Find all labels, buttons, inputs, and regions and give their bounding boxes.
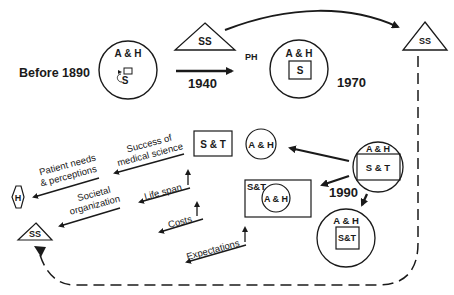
ss-left-label: SS	[29, 229, 41, 239]
ss-triangle-top-right: SS	[403, 22, 447, 50]
circle4-st-label: S&T	[338, 233, 357, 243]
ss-top-left-label: SS	[198, 36, 212, 47]
ah-circle-small: A & H	[246, 129, 276, 159]
ss-top-right-label: SS	[419, 36, 431, 46]
circle-before-1890: A & H S	[99, 41, 157, 99]
rect-ah-label: A & H	[264, 194, 288, 204]
rect-corner-st-label: S&T	[247, 181, 266, 192]
arrow-to-rect-box	[322, 176, 349, 185]
h-label: H	[15, 193, 22, 203]
st-box-label: S & T	[200, 139, 226, 150]
circle2-s-label: S	[297, 65, 304, 76]
rect-st-ah: S&T A & H	[245, 180, 311, 217]
circle3-ah-label: A & H	[366, 144, 390, 154]
arrow-to-ah-circle	[290, 148, 349, 161]
circle-st-right: A & H S & T	[353, 142, 403, 192]
evolution-diagram: Before 1890 A & H S SS 1940 PH A & H S 1…	[0, 0, 454, 295]
year-1970-label: 1970	[337, 75, 366, 90]
ss-triangle-top-left: SS	[175, 23, 235, 50]
year-1990-label: 1990	[329, 185, 358, 200]
circle1-s-label: S	[122, 75, 129, 86]
circle-st-bottom: A & H S&T	[317, 209, 375, 267]
circle1-ah-label: A & H	[115, 48, 142, 59]
ah-small-label: A & H	[248, 139, 274, 150]
circle-1970: A & H S	[270, 40, 328, 98]
before-1890-label: Before 1890	[19, 66, 90, 80]
year-1940-label: 1940	[188, 76, 217, 91]
st-box: S & T	[194, 131, 232, 156]
curved-arrow-ss	[225, 11, 398, 30]
circle4-ah-label: A & H	[333, 215, 359, 226]
h-hexagon: H	[12, 186, 24, 208]
costs-label: Costs	[167, 213, 194, 230]
arrowhead-icon	[118, 70, 122, 74]
circle3-st-label: S & T	[366, 162, 390, 173]
circle2-ah-label: A & H	[286, 48, 313, 59]
ss-triangle-left: SS	[18, 223, 52, 240]
arrow-down-1990	[362, 194, 367, 205]
dashed-arrowhead-icon	[34, 246, 46, 257]
ph-label: PH	[245, 52, 258, 62]
